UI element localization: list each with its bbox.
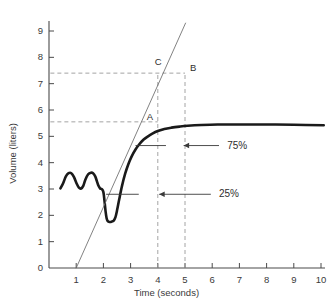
annotation-arrows-group — [159, 143, 219, 197]
y-tick-label-2: 2 — [29, 211, 43, 221]
annotation-75-percent: 75% — [227, 141, 247, 151]
volume-time-chart: 123456789100123456789 Time (seconds) Vol… — [0, 0, 333, 308]
annotation-75-percent-head — [184, 143, 190, 149]
volume-trace — [60, 124, 323, 221]
chart-plot-area — [0, 0, 333, 308]
x-tick-label-1: 1 — [74, 275, 79, 285]
y-tick-label-5: 5 — [29, 132, 43, 142]
y-tick-label-0: 0 — [29, 263, 43, 273]
label-B: B — [190, 63, 196, 73]
y-tick-label-6: 6 — [29, 105, 43, 115]
y-tick-label-1: 1 — [29, 237, 43, 247]
x-tick-label-10: 10 — [316, 275, 327, 285]
x-tick-label-8: 8 — [264, 275, 269, 285]
x-tick-label-5: 5 — [182, 275, 187, 285]
label-A: A — [147, 112, 153, 122]
extrapolation-line — [76, 23, 185, 268]
x-tick-label-3: 3 — [128, 275, 133, 285]
annotation-25-percent-head — [159, 191, 165, 197]
x-tick-label-4: 4 — [155, 275, 160, 285]
x-tick-label-7: 7 — [237, 275, 242, 285]
x-tick-label-2: 2 — [101, 275, 106, 285]
annotation-25-percent: 25% — [219, 189, 239, 199]
y-tick-label-7: 7 — [29, 79, 43, 89]
x-tick-label-9: 9 — [291, 275, 296, 285]
level-markers-group — [106, 146, 166, 195]
y-tick-label-9: 9 — [29, 26, 43, 36]
reference-lines-group — [50, 73, 185, 268]
label-C: C — [155, 57, 162, 67]
y-tick-label-4: 4 — [29, 158, 43, 168]
x-tick-label-6: 6 — [210, 275, 215, 285]
y-tick-label-3: 3 — [29, 184, 43, 194]
y-tick-label-8: 8 — [29, 53, 43, 63]
y-axis-title: Volume (liters) — [7, 99, 18, 209]
x-axis-title: Time (seconds) — [0, 287, 333, 298]
